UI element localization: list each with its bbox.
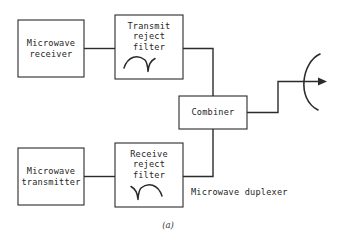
receiver-label-line2: receiver bbox=[30, 49, 73, 59]
wire-combiner-to-antenna bbox=[247, 82, 306, 113]
figure-label: (a) bbox=[162, 220, 174, 230]
block-transmit-reject-filter: Transmit reject filter bbox=[115, 15, 183, 79]
block-microwave-receiver: Microwave receiver bbox=[18, 20, 84, 77]
feed-arrow-right-icon bbox=[318, 78, 327, 86]
receive-filter-label-line2: reject bbox=[133, 159, 165, 169]
combiner-label: Combiner bbox=[192, 107, 235, 117]
block-combiner: Combiner bbox=[179, 96, 247, 129]
wire-receive-filter-to-combiner bbox=[183, 129, 213, 177]
transmitter-label-line1: Microwave bbox=[27, 166, 75, 176]
receiver-label-line1: Microwave bbox=[27, 38, 75, 48]
receive-filter-label-line1: Receive bbox=[130, 149, 168, 159]
transmitter-label-line2: transmitter bbox=[21, 177, 80, 187]
parabolic-dish-antenna bbox=[304, 54, 327, 110]
block-receive-reject-filter: Receive reject filter bbox=[115, 143, 183, 207]
block-microwave-transmitter: Microwave transmitter bbox=[18, 148, 84, 205]
receive-filter-label-line3: filter bbox=[133, 170, 165, 180]
microwave-duplexer-diagram: Microwave receiver Transmit reject filte… bbox=[0, 0, 337, 244]
transmit-filter-label-line1: Transmit bbox=[128, 21, 171, 31]
wire-transmit-filter-to-combiner bbox=[183, 49, 213, 97]
duplexer-caption: Microwave duplexer bbox=[191, 187, 288, 197]
transmit-filter-label-line2: reject bbox=[133, 31, 165, 41]
transmit-filter-label-line3: filter bbox=[133, 42, 165, 52]
